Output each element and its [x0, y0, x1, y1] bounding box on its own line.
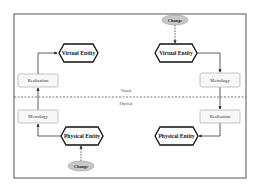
- node-right-realisation[interactable]: Realisation: [200, 110, 240, 123]
- node-label: Metrology: [28, 114, 48, 119]
- node-left-metrology[interactable]: Metrology: [18, 110, 58, 123]
- node-label: Realisation: [28, 78, 49, 83]
- node-right-physical-entity[interactable]: Physical Entity: [155, 127, 198, 145]
- node-left-change[interactable]: Change: [68, 161, 94, 171]
- node-label: Virtual Entity: [62, 50, 96, 56]
- node-label: Virtual Entity: [159, 50, 193, 56]
- layer-label-physical: Physical: [120, 102, 133, 106]
- node-label: Change: [168, 18, 182, 23]
- node-label: Realisation: [210, 114, 231, 119]
- node-left-virtual-entity[interactable]: Virtual Entity: [59, 44, 98, 62]
- node-left-physical-entity[interactable]: Physical Entity: [61, 127, 103, 145]
- node-left-realisation[interactable]: Realisation: [18, 74, 58, 87]
- node-label: Physical Entity: [64, 133, 100, 139]
- node-label: Change: [74, 164, 88, 169]
- node-label: Physical Entity: [158, 133, 194, 139]
- node-right-change[interactable]: Change: [162, 15, 188, 25]
- node-right-virtual-entity[interactable]: Virtual Entity: [155, 44, 197, 62]
- node-right-metrology[interactable]: Metrology: [200, 73, 240, 87]
- diagram-canvas: Virtual Physical Virtual Entity Realisat…: [0, 0, 260, 187]
- layer-label-virtual: Virtual: [121, 89, 132, 93]
- node-label: Metrology: [210, 78, 230, 83]
- diagram-frame: [14, 14, 246, 178]
